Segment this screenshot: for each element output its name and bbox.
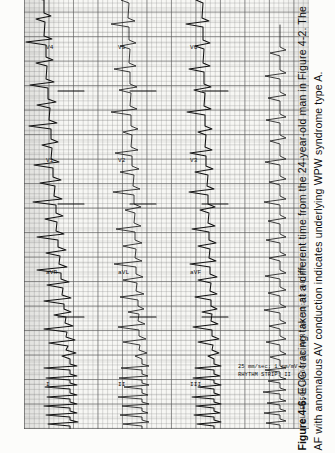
figure-caption-container: Figure 4-6. ECG tracing taken at a diffe… (285, 0, 335, 453)
lead-label-V3: V3 (190, 157, 198, 164)
lead-label-III: III (190, 381, 201, 388)
lead-label-II: II (118, 381, 126, 388)
lead-label-aVF: aVF (190, 269, 201, 276)
lead-label-I: I (46, 381, 50, 388)
lead-label-V5: V5 (118, 44, 126, 51)
figure-caption: Figure 4-6. ECG tracing taken at a diffe… (295, 3, 326, 450)
lead-label-V4: V4 (46, 44, 54, 51)
figure-number: Figure 4-6. (296, 397, 308, 450)
figure-page: I aVR V1 V4 II aVL V2 V5 III aVF V3 V6 R… (0, 0, 335, 453)
lead-label-V6: V6 (190, 44, 198, 51)
lead-label-V1: V1 (46, 157, 54, 164)
lead-label-V2: V2 (118, 157, 126, 164)
rhythm-strip-note-line-1: RHYTHM STRIP: II (238, 371, 291, 378)
lead-label-aVL: aVL (118, 269, 129, 276)
ecg-tracing-plate: I aVR V1 V4 II aVL V2 V5 III aVF V3 V6 R… (24, 0, 309, 429)
lead-label-aVR: aVR (46, 269, 57, 276)
figure-caption-text: ECG tracing taken at a different time fr… (296, 6, 324, 450)
